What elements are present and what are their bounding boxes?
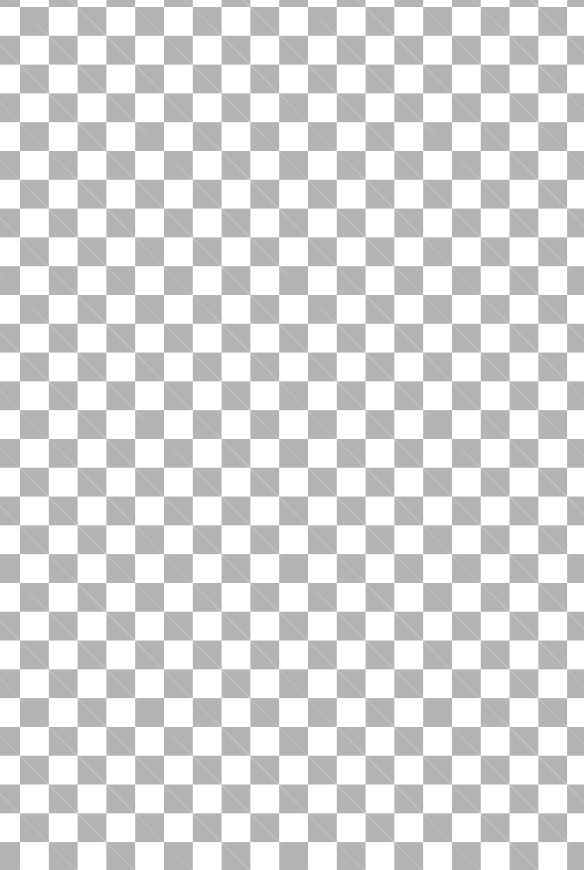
transparency-checkerboard — [0, 0, 584, 870]
